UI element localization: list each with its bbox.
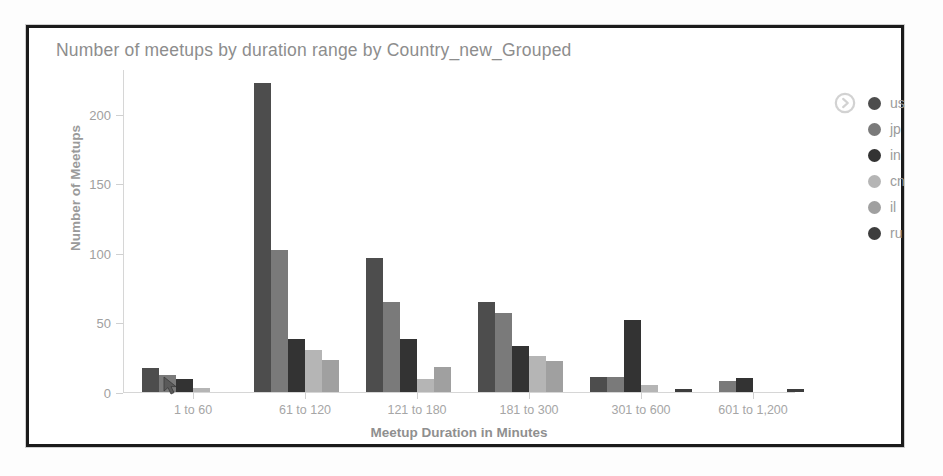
bar[interactable]: [495, 313, 512, 392]
x-axis-tick-label: 601 to 1,200: [718, 403, 788, 417]
bar[interactable]: [546, 361, 563, 392]
y-axis-tick-label: 150: [89, 177, 111, 192]
bar-group: 1 to 60: [142, 70, 244, 392]
legend-item-label: cn: [890, 173, 905, 189]
y-axis-tick-mark: [116, 393, 123, 394]
y-axis-tick-mark: [116, 184, 123, 185]
bar[interactable]: [529, 356, 546, 392]
x-axis-tick-mark: [753, 392, 754, 399]
bar-group: 181 to 300: [478, 70, 580, 392]
bar[interactable]: [434, 367, 451, 392]
y-axis-line: [123, 70, 124, 393]
y-axis-tick-mark: [116, 323, 123, 324]
y-axis-tick-label: 50: [97, 316, 111, 331]
x-axis-tick-mark: [529, 392, 530, 399]
legend-items: usjpincnilru: [868, 90, 905, 246]
bar[interactable]: [288, 339, 305, 392]
bar[interactable]: [675, 389, 692, 392]
x-axis-tick-label: 61 to 120: [279, 403, 331, 417]
x-axis-tick-label: 121 to 180: [387, 403, 446, 417]
x-axis-tick-mark: [641, 392, 642, 399]
bar[interactable]: [719, 381, 736, 392]
bar[interactable]: [322, 360, 339, 392]
legend-item-label: il: [890, 199, 896, 215]
bar[interactable]: [383, 302, 400, 392]
bar-group: 601 to 1,200: [702, 70, 804, 392]
legend-item-cn[interactable]: cn: [868, 168, 905, 194]
bar[interactable]: [624, 320, 641, 392]
chart-frame: Number of meetups by duration range by C…: [26, 25, 904, 447]
bar[interactable]: [590, 377, 607, 392]
legend-item-ru[interactable]: ru: [868, 220, 905, 246]
legend-swatch-icon: [868, 97, 881, 110]
chevron-right-circle-icon[interactable]: [834, 92, 856, 114]
bar-group: 121 to 180: [366, 70, 468, 392]
bar[interactable]: [254, 83, 271, 392]
legend-item-us[interactable]: us: [868, 90, 905, 116]
bar-group: 301 to 600: [590, 70, 692, 392]
bar[interactable]: [641, 385, 658, 392]
y-axis-tick-label: 0: [104, 386, 111, 401]
bar[interactable]: [142, 368, 159, 392]
legend-swatch-icon: [868, 227, 881, 240]
y-axis-title: Number of Meetups: [68, 125, 83, 251]
bar-group: 61 to 120: [254, 70, 356, 392]
x-axis-tick-mark: [193, 392, 194, 399]
y-axis-tick-mark: [116, 115, 123, 116]
bar[interactable]: [607, 377, 624, 392]
legend-item-il[interactable]: il: [868, 194, 905, 220]
legend-swatch-icon: [868, 149, 881, 162]
bar[interactable]: [417, 379, 434, 392]
legend-item-label: ru: [890, 225, 902, 241]
legend-item-label: us: [890, 95, 905, 111]
x-axis-tick-label: 301 to 600: [611, 403, 670, 417]
bar[interactable]: [512, 346, 529, 392]
x-axis-tick-mark: [305, 392, 306, 399]
y-axis-tick-label: 100: [89, 246, 111, 261]
legend-swatch-icon: [868, 175, 881, 188]
screenshot-root: Number of meetups by duration range by C…: [0, 0, 943, 476]
legend-swatch-icon: [868, 123, 881, 136]
bar[interactable]: [400, 339, 417, 392]
x-axis-tick-mark: [417, 392, 418, 399]
legend-item-label: in: [890, 147, 901, 163]
legend-item-in[interactable]: in: [868, 142, 905, 168]
bar[interactable]: [176, 379, 193, 392]
legend-item-jp[interactable]: jp: [868, 116, 905, 142]
bar[interactable]: [366, 258, 383, 392]
bar[interactable]: [271, 250, 288, 392]
plot-area: 050100150200 1 to 6061 to 120121 to 1801…: [123, 70, 795, 393]
bar[interactable]: [305, 350, 322, 392]
x-axis-tick-label: 181 to 300: [499, 403, 558, 417]
bar[interactable]: [787, 389, 804, 392]
bar[interactable]: [159, 375, 176, 392]
x-axis-line: [123, 392, 795, 393]
bar[interactable]: [736, 378, 753, 392]
legend-swatch-icon: [868, 201, 881, 214]
bar[interactable]: [193, 388, 210, 392]
y-axis-tick-mark: [116, 254, 123, 255]
legend-item-label: jp: [890, 121, 901, 137]
x-axis-tick-label: 1 to 60: [174, 403, 212, 417]
chart-title: Number of meetups by duration range by C…: [56, 40, 572, 61]
x-axis-title: Meetup Duration in Minutes: [371, 425, 548, 440]
y-axis-tick-label: 200: [89, 107, 111, 122]
bar[interactable]: [478, 302, 495, 392]
